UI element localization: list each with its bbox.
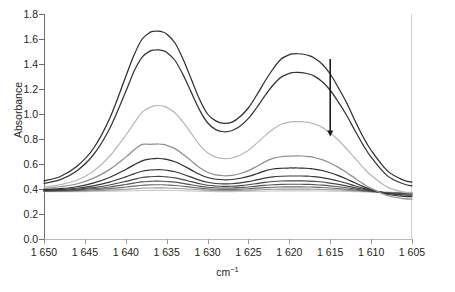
x-tick-label: 1 605	[390, 247, 434, 258]
y-tick-label: 0.6	[0, 159, 38, 169]
x-tick-mark	[44, 239, 45, 244]
y-tick-mark	[39, 164, 44, 165]
arrow-head	[327, 131, 333, 137]
spectrum-figure: Absorbance 0.00.20.40.60.81.01.21.41.61.…	[0, 0, 455, 292]
y-tick-label: 0.4	[0, 184, 38, 194]
spectrum-curve	[44, 190, 412, 192]
x-tick-label: 1 625	[226, 247, 270, 258]
x-tick-mark	[371, 239, 372, 244]
spectrum-curve	[44, 105, 412, 193]
plot-right-border	[411, 14, 412, 240]
curve-group	[44, 31, 412, 199]
spectrum-curve	[44, 185, 412, 194]
x-tick-label: 1 640	[104, 247, 148, 258]
x-tick-mark	[208, 239, 209, 244]
decreasing-arrow	[327, 59, 333, 137]
y-tick-label: 0.0	[0, 234, 38, 244]
y-tick-mark	[39, 14, 44, 15]
y-tick-mark	[39, 39, 44, 40]
spectrum-curve	[44, 50, 412, 186]
x-tick-label: 1 615	[308, 247, 352, 258]
y-tick-label: 1.8	[0, 9, 38, 19]
spectrum-curve	[44, 188, 412, 193]
x-tick-mark	[289, 239, 290, 244]
x-tick-label: 1 650	[22, 247, 66, 258]
x-tick-mark	[167, 239, 168, 244]
x-tick-label: 1 635	[145, 247, 189, 258]
spectrum-curve	[44, 158, 412, 196]
spectrum-curve	[44, 181, 412, 194]
x-axis-label: cm−1	[0, 266, 455, 278]
y-tick-mark	[39, 89, 44, 90]
x-tick-mark	[412, 239, 413, 244]
x-tick-mark	[248, 239, 249, 244]
y-tick-mark	[39, 64, 44, 65]
x-tick-mark	[126, 239, 127, 244]
y-tick-label: 1.6	[0, 34, 38, 44]
y-tick-label: 1.0	[0, 109, 38, 119]
y-tick-mark	[39, 189, 44, 190]
x-axis-line	[44, 239, 412, 240]
x-tick-label: 1 610	[349, 247, 393, 258]
y-tick-mark	[39, 139, 44, 140]
y-tick-label: 0.2	[0, 209, 38, 219]
x-tick-label: 1 630	[186, 247, 230, 258]
x-axis-label-exponent: −1	[230, 265, 239, 274]
spectrum-curve	[44, 144, 412, 199]
y-tick-label: 0.8	[0, 134, 38, 144]
x-axis-label-text: cm−1	[216, 266, 239, 278]
y-tick-label: 1.2	[0, 84, 38, 94]
y-axis-line	[44, 14, 45, 239]
spectrum-curve	[44, 176, 412, 194]
x-tick-label: 1 620	[267, 247, 311, 258]
spectrum-curve	[44, 170, 412, 196]
y-tick-mark	[39, 214, 44, 215]
x-tick-mark	[85, 239, 86, 244]
x-tick-mark	[330, 239, 331, 244]
y-tick-label: 1.4	[0, 59, 38, 69]
x-tick-label: 1 645	[63, 247, 107, 258]
spectrum-curve	[44, 31, 412, 182]
y-tick-mark	[39, 114, 44, 115]
